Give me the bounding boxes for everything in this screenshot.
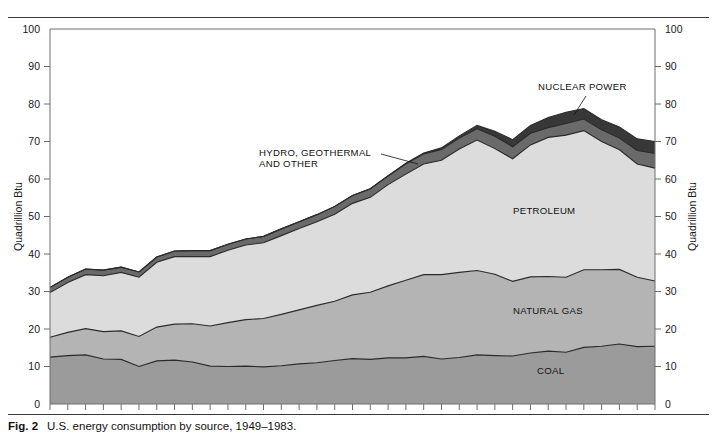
figure-number: Fig. 2: [8, 420, 38, 432]
annotation-coal: COAL: [537, 365, 565, 376]
y-axis-tick-label-right: 10: [665, 360, 677, 372]
y-axis-tick-label-right: 70: [665, 135, 677, 147]
annotation-nuclear-power: NUCLEAR POWER: [538, 81, 627, 92]
annotation-hydro-line1: HYDRO, GEOTHERMAL: [259, 147, 372, 158]
figure-caption: Fig. 2U.S. energy consumption by source,…: [8, 420, 708, 432]
y-axis-title-left: Quadrillion Btu: [12, 182, 24, 251]
y-axis-tick-label-right: 60: [665, 173, 677, 185]
y-axis-tick-label-left: 40: [28, 248, 40, 260]
y-axis-tick-label-left: 20: [28, 323, 40, 335]
y-axis-tick-label-right: 30: [665, 285, 677, 297]
y-axis-tick-label-right: 100: [665, 23, 683, 35]
y-axis-tick-label-left: 50: [28, 210, 40, 222]
y-axis-tick-label-left: 70: [28, 135, 40, 147]
y-axis-tick-label-left: 80: [28, 98, 40, 110]
annotation-petroleum: PETROLEUM: [513, 205, 575, 216]
y-axis-tick-label-right: 80: [665, 98, 677, 110]
y-axis-tick-label-left: 90: [28, 60, 40, 72]
y-axis-tick-label-left: 10: [28, 360, 40, 372]
y-axis-tick-label-left: 60: [28, 173, 40, 185]
energy-consumption-area-chart: 0010102020303040405050606070708080909010…: [0, 14, 717, 414]
y-axis-tick-label-right: 20: [665, 323, 677, 335]
y-axis-tick-label-right: 90: [665, 60, 677, 72]
figure-bottom-rule: [8, 414, 709, 415]
figure-caption-text: U.S. energy consumption by source, 1949–…: [47, 420, 296, 432]
y-axis-tick-label-left: 100: [22, 23, 40, 35]
y-axis-tick-label-left: 30: [28, 285, 40, 297]
y-axis-tick-label-right: 0: [665, 398, 671, 410]
y-axis-tick-label-right: 40: [665, 248, 677, 260]
y-axis-tick-label-left: 0: [34, 398, 40, 410]
annotation-natural-gas: NATURAL GAS: [513, 305, 583, 316]
y-axis-tick-label-right: 50: [665, 210, 677, 222]
annotation-hydro-line2: AND OTHER: [259, 158, 318, 169]
figure-container: 0010102020303040405050606070708080909010…: [0, 0, 717, 441]
y-axis-title-right: Quadrillion Btu: [686, 182, 698, 251]
